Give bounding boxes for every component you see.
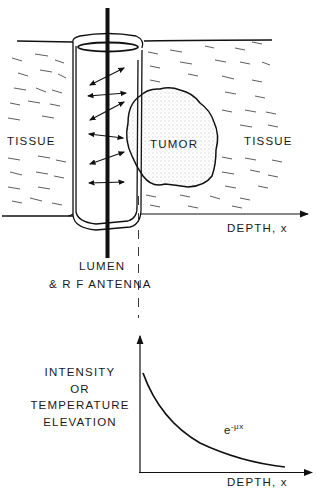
depth-axis-label-top: DEPTH, x: [227, 222, 288, 234]
depth-axis-label-bottom: DEPTH, x: [227, 476, 288, 488]
y-axis-label-line-2: OR: [30, 381, 130, 398]
y-axis-label-line-1: INTENSITY: [30, 364, 130, 381]
curve-formula-label: e-μx: [224, 424, 244, 436]
formula-base: e: [224, 424, 231, 436]
y-axis-label-line-4: ELEVATION: [30, 414, 130, 431]
tumor-label: TUMOR: [150, 138, 198, 150]
tissue-right-label: TISSUE: [244, 135, 293, 147]
y-axis-label: INTENSITY OR TEMPERATURE ELEVATION: [30, 364, 130, 430]
decay-chart: [139, 336, 312, 473]
rf-antenna-label: & R F ANTENNA: [49, 278, 152, 290]
decay-curve: [143, 373, 285, 467]
rf-antenna-rod: [106, 8, 110, 258]
lumen-label: LUMEN: [79, 260, 125, 272]
formula-exponent: -μx: [231, 422, 244, 431]
y-axis-label-line-3: TEMPERATURE: [30, 397, 130, 414]
tissue-left-label: TISSUE: [7, 135, 56, 147]
